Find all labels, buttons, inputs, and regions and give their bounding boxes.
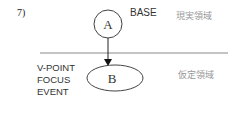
node-b-annotations: V-POINT FOCUS EVENT: [37, 62, 75, 98]
lower-region-label: 仮定領域: [178, 68, 214, 81]
upper-region-label: 現実領域: [176, 9, 212, 22]
annotation-event: EVENT: [37, 86, 75, 98]
node-a-annotation: BASE: [130, 7, 157, 18]
node-a-label: A: [103, 17, 113, 32]
annotation-vpoint: V-POINT: [37, 62, 75, 74]
node-b-label: B: [108, 71, 117, 86]
annotation-focus: FOCUS: [37, 74, 75, 86]
